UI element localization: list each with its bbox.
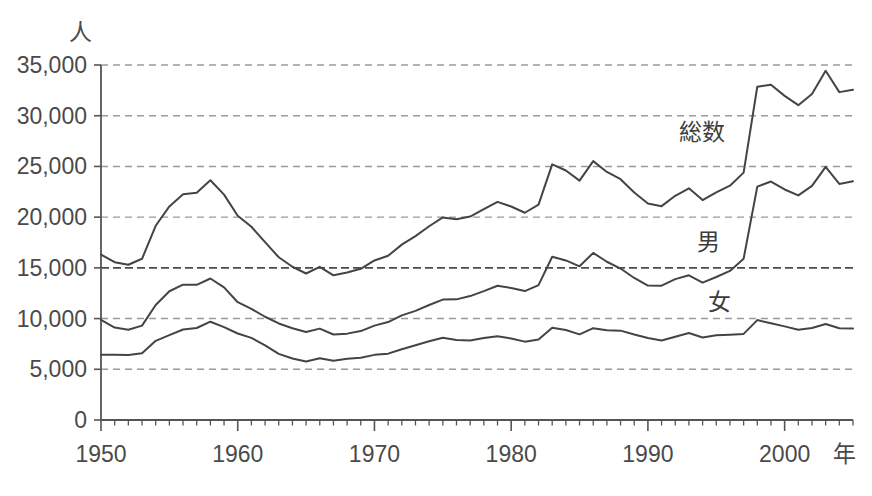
x-tick-label: 1980 [486, 441, 537, 467]
y-tick-label: 15,000 [17, 255, 87, 281]
y-tick-label: 10,000 [17, 306, 87, 332]
y-tick-label: 20,000 [17, 204, 87, 230]
y-axis-unit-label: 人 [69, 19, 92, 45]
x-axis-unit-label: 年 [833, 441, 856, 467]
series-inline-label: 女 [708, 289, 731, 315]
x-tick-label: 1970 [349, 441, 400, 467]
chart-canvas: 05,00010,00015,00020,00025,00030,00035,0… [0, 0, 872, 496]
x-tick-label: 1960 [212, 441, 263, 467]
series-inline-label: 総数 [679, 119, 725, 145]
y-tick-label: 0 [74, 407, 87, 433]
suicide-statistics-chart: 05,00010,00015,00020,00025,00030,00035,0… [0, 0, 872, 496]
x-tick-label: 1990 [622, 441, 673, 467]
y-tick-label: 35,000 [17, 52, 87, 78]
y-tick-label: 5,000 [29, 356, 87, 382]
x-tick-label: 2000 [759, 441, 810, 467]
y-tick-label: 30,000 [17, 103, 87, 129]
series-inline-label: 男 [697, 229, 720, 255]
y-tick-label: 25,000 [17, 153, 87, 179]
x-tick-label: 1950 [75, 441, 126, 467]
chart-background [0, 0, 872, 496]
